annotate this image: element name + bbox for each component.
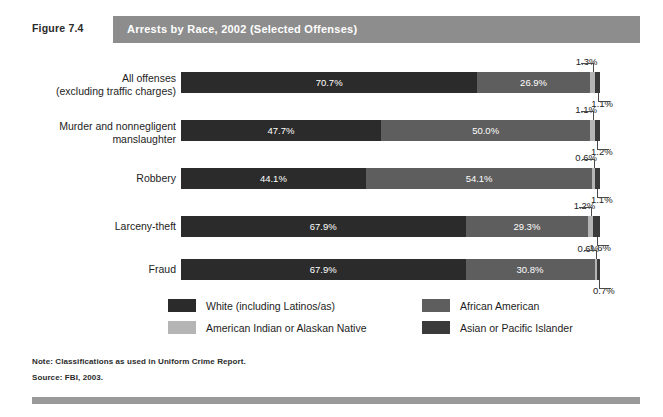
stacked-bar: 67.9%29.3%1.2%1.6% (181, 216, 600, 237)
legend-item: White (including Latinos/as) (168, 299, 335, 312)
footer-rule (32, 397, 640, 404)
leader-line (594, 159, 595, 168)
stacked-bar: 70.7%26.9%1.3%1.1% (181, 72, 600, 93)
legend-item: American Indian or Alaskan Native (168, 321, 367, 334)
legend-swatch (168, 321, 196, 334)
leader-line (582, 159, 594, 160)
chart-note: Note: Classifications as used in Uniform… (32, 357, 246, 366)
bar-segment: 67.9% (181, 259, 466, 280)
chart-legend: White (including Latinos/as)African Amer… (168, 299, 588, 339)
category-label-line: Fraud (26, 263, 176, 276)
category-label: All offenses(excluding traffic charges) (26, 72, 176, 97)
leader-line (597, 197, 609, 198)
category-label-line: (excluding traffic charges) (26, 85, 176, 98)
category-label: Murder and nonnegligentmanslaughter (26, 120, 176, 145)
bar-segment: 44.1% (181, 168, 366, 189)
legend-label: White (including Latinos/as) (206, 300, 335, 312)
bar-segment: 26.9% (477, 72, 590, 93)
leader-line (599, 288, 611, 289)
leader-line (597, 149, 609, 150)
bar-segment: 1.6% (593, 216, 600, 237)
legend-label: African American (460, 300, 539, 312)
legend-swatch (422, 299, 450, 312)
bar-segment: 70.7% (181, 72, 477, 93)
segment-value-label: 30.8% (517, 264, 544, 275)
segment-value-label: 44.1% (260, 173, 287, 184)
legend-swatch (422, 321, 450, 334)
bar-segment: 30.8% (466, 259, 595, 280)
figure-panel: Figure 7.4 Arrests by Race, 2002 (Select… (0, 0, 663, 417)
leader-line (598, 101, 610, 102)
category-label-line: All offenses (26, 72, 176, 85)
segment-value-label: 26.9% (520, 77, 547, 88)
category-label: Fraud (26, 263, 176, 276)
bar-segment: 29.3% (466, 216, 589, 237)
segment-value-label: 70.7% (316, 77, 343, 88)
legend-swatch (168, 299, 196, 312)
stacked-bar: 47.7%50.0%1.1%1.2% (181, 120, 600, 141)
segment-value-label: 67.9% (310, 264, 337, 275)
leader-line (593, 63, 594, 72)
chart-row: Robbery44.1%54.1%0.6%1.1% (0, 168, 663, 214)
segment-value-label: 47.7% (267, 125, 294, 136)
category-label-line: manslaughter (26, 133, 176, 146)
leader-line (591, 207, 592, 216)
stacked-bar-chart: All offenses(excluding traffic charges)7… (0, 0, 663, 417)
category-label-line: Larceny-theft (26, 220, 176, 233)
chart-row: All offenses(excluding traffic charges)7… (0, 72, 663, 118)
legend-item: Asian or Pacific Islander (422, 321, 573, 334)
segment-value-label: 67.9% (310, 221, 337, 232)
segment-callout-label: 0.7% (593, 285, 615, 296)
segment-callout-label: 1.1% (575, 104, 597, 115)
legend-item: African American (422, 299, 539, 312)
leader-line (581, 111, 593, 112)
leader-line (579, 207, 591, 208)
leader-line (581, 63, 593, 64)
category-label: Robbery (26, 172, 176, 185)
segment-value-label: 54.1% (466, 173, 493, 184)
segment-callout-label: 1.2% (574, 200, 596, 211)
legend-label: American Indian or Alaskan Native (206, 322, 367, 334)
bar-segment: 50.0% (381, 120, 591, 141)
segment-value-label: 29.3% (513, 221, 540, 232)
bar-segment: 1.1% (595, 72, 600, 93)
bar-segment: 47.7% (181, 120, 381, 141)
chart-row: Larceny-theft67.9%29.3%1.2%1.6% (0, 216, 663, 262)
legend-label: Asian or Pacific Islander (460, 322, 573, 334)
category-label: Larceny-theft (26, 220, 176, 233)
category-label-line: Robbery (26, 172, 176, 185)
leader-line (596, 250, 597, 259)
bar-segment: 54.1% (366, 168, 593, 189)
stacked-bar: 67.9%30.8%0.6%0.7% (181, 259, 600, 280)
chart-source: Source: FBI, 2003. (32, 373, 103, 382)
category-label-line: Murder and nonnegligent (26, 120, 176, 133)
chart-row: Murder and nonnegligentmanslaughter47.7%… (0, 120, 663, 166)
bar-segment: 67.9% (181, 216, 466, 237)
segment-value-label: 50.0% (472, 125, 499, 136)
segment-callout-label: 1.3% (576, 56, 598, 67)
bar-segment: 1.1% (595, 168, 600, 189)
bar-segment: 0.7% (597, 259, 600, 280)
stacked-bar: 44.1%54.1%0.6%1.1% (181, 168, 600, 189)
leader-line (593, 111, 594, 120)
bar-segment: 1.2% (595, 120, 600, 141)
leader-line (584, 250, 596, 251)
